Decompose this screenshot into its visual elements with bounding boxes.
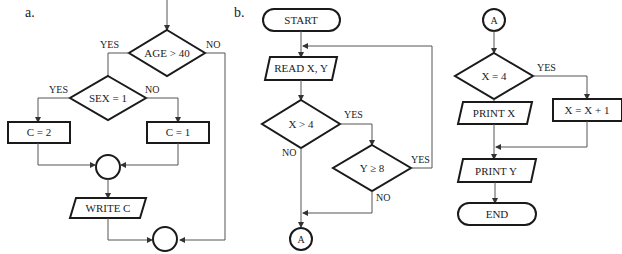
decision-y-ge-8: Y ≥ 8 [333,145,411,191]
output-write-c: WRITE C [70,198,146,218]
write-to-end-connector [108,218,152,240]
x-yes-connector [340,124,372,145]
decision-sex-text: SEX = 1 [89,92,127,104]
c1-merge-connector [121,143,178,165]
output-print-y: PRINT Y [458,159,536,182]
process-c1-text: C = 1 [166,126,191,138]
x-yes-label: YES [344,109,363,120]
decision-x-gt-4: X > 4 [262,100,340,148]
x-no-label: NO [282,147,296,158]
process-increment-x: X = X + 1 [553,99,622,121]
process-inc-text: X = X + 1 [565,104,610,116]
part-label-b: b. [234,5,245,20]
decision-age: AGE > 40 [129,30,205,76]
x4-yes-label: YES [537,62,556,73]
sex-no-connector [146,98,178,122]
input-read-text: READ X, Y [274,62,328,74]
sex-yes-connector [38,98,70,122]
process-c1: C = 1 [147,122,209,143]
age-no-label: NO [206,39,220,50]
process-c2: C = 2 [8,122,70,143]
sex-no-label: NO [145,84,159,95]
decision-sex: SEX = 1 [70,76,146,120]
age-no-connector [180,53,225,240]
sex-yes-label: YES [49,84,68,95]
output-write-text: WRITE C [86,202,131,214]
decision-x4-text: X = 4 [481,70,507,82]
terminal-end: END [458,203,536,225]
x4-yes-connector [533,76,587,99]
flowchart-figure: a. AGE > 40 YES NO SEX = 1 YES NO C = 2 … [0,0,622,254]
y-no-label: NO [376,192,390,203]
part-label-a: a. [25,5,35,20]
y-no-connector [303,191,372,213]
output-print-y-text: PRINT Y [475,165,517,177]
connector-a-in-text: A [490,15,498,26]
decision-y-text: Y ≥ 8 [360,162,385,174]
decision-age-text: AGE > 40 [144,47,190,59]
input-read-xy: READ X, Y [265,57,337,80]
connector-a-out-text: A [297,234,305,245]
start-text: START [284,14,318,26]
merge-connector-circle [96,155,120,179]
decision-x-eq-4: X = 4 [455,53,533,99]
decision-x-text: X > 4 [288,118,314,130]
c2-merge-connector [38,143,95,165]
end-connector-circle [153,227,177,251]
y-yes-label: YES [411,154,430,165]
age-yes-label: YES [100,39,119,50]
output-print-x-text: PRINT X [473,107,515,119]
age-yes-connector [108,53,129,76]
terminal-start: START [263,9,340,31]
end-text: END [486,208,509,220]
process-c2-text: C = 2 [27,126,52,138]
output-print-x: PRINT X [458,102,532,124]
